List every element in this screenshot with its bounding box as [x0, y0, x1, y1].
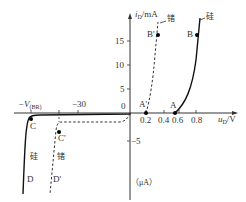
label-C: C — [30, 122, 36, 131]
y-tick-10: 10 — [115, 61, 124, 70]
silicon-reverse-curve — [23, 113, 130, 194]
x-axis-label: uD/V — [218, 115, 236, 125]
x-tick-neg30: −30 — [72, 100, 86, 109]
label-B: B — [187, 30, 193, 39]
silicon-label-top: 硅 — [206, 13, 214, 21]
point-B — [195, 33, 199, 37]
y-tick-neg5: −5 — [131, 137, 141, 146]
negative-y-unit-label: （μA） — [131, 179, 157, 187]
y-axis-label: iD/mA — [135, 10, 158, 20]
y-tick-5: 5 — [120, 85, 125, 94]
origin-label: 0 — [121, 102, 126, 111]
label-A-prime: A' — [139, 100, 147, 109]
x-tick-0.4: 0.4 — [158, 116, 169, 125]
y-tick-15: 15 — [115, 37, 124, 46]
x-tick-0.2: 0.2 — [140, 116, 151, 125]
label-D: D — [27, 175, 34, 184]
point-B-prime — [156, 33, 160, 37]
x-tick-0.8: 0.8 — [191, 116, 202, 125]
germanium-label-bottom: 锗 — [57, 153, 65, 161]
germanium-label-top: 锗 — [167, 15, 175, 23]
label-C-prime: C' — [58, 134, 66, 143]
y-axis-arrow-icon — [128, 13, 132, 19]
x-tick-vbr: −V(BR) — [18, 100, 42, 110]
label-B-prime: B' — [147, 30, 155, 39]
x-tick-0.6: 0.6 — [172, 116, 183, 125]
silicon-label-bottom: 硅 — [30, 153, 38, 161]
label-A: A — [170, 101, 177, 110]
label-D-prime: D' — [53, 175, 61, 184]
